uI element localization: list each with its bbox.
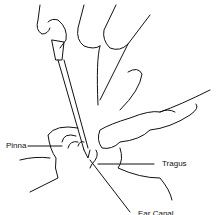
lower-hand [98,69,210,148]
tragus-label: Tragus [162,160,187,168]
ear [20,127,172,212]
pinna-label: Pinna [6,142,26,150]
ear-cleaning-illustration [0,0,217,215]
upper-hand [37,5,150,105]
cotton-swab [52,40,90,158]
canal-label: Ear Canal [138,210,174,215]
